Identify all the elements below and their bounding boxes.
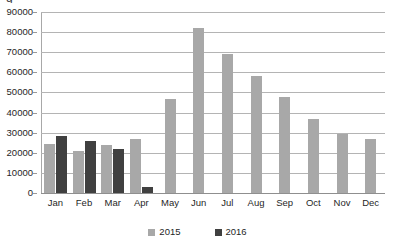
gridline <box>41 32 385 33</box>
bar-2015-nov <box>337 134 348 193</box>
legend-item-2015[interactable]: 2015 <box>148 227 180 237</box>
bar-2015-jan <box>44 144 55 193</box>
bar-2016-feb <box>85 141 96 193</box>
gridline <box>41 72 385 73</box>
gridline <box>41 52 385 53</box>
y-axis-tick-mark <box>33 92 37 93</box>
y-axis-tick-label: 80000 <box>7 27 33 37</box>
y-axis-tick-label: 50000 <box>7 87 33 97</box>
legend-swatch-icon-2015 <box>148 229 155 236</box>
y-axis-tick-label: 60000 <box>7 67 33 77</box>
y-axis-tick-label: 10000 <box>7 168 33 178</box>
y-axis-tick-label: 90000 <box>7 7 33 17</box>
legend-label-2015: 2015 <box>159 227 180 237</box>
bar-2015-mar <box>101 145 112 193</box>
y-axis-tick-label: 40000 <box>7 108 33 118</box>
legend-label-2016: 2016 <box>226 227 247 237</box>
bar-2015-aug <box>251 76 262 193</box>
y-axis-tick-mark <box>33 153 37 154</box>
gridline <box>41 133 385 134</box>
y-axis-tick-mark <box>33 72 37 73</box>
y-axis-tick-mark <box>33 12 37 13</box>
y-axis-tick-label: 70000 <box>7 47 33 57</box>
x-axis-line <box>41 193 385 194</box>
y-axis-labels: 0100002000030000400005000060000700008000… <box>0 12 37 194</box>
y-axis-tick-mark <box>33 32 37 33</box>
x-axis-label-dec: Dec <box>351 197 391 208</box>
y-axis-tick-mark <box>33 173 37 174</box>
bar-2015-feb <box>73 151 84 193</box>
plot-area <box>41 12 385 194</box>
gridline <box>41 92 385 93</box>
y-axis-tick-mark <box>33 133 37 134</box>
bar-chart: g 01000020000300004000050000600007000080… <box>0 0 395 246</box>
bar-2015-jul <box>222 54 233 193</box>
bar-2015-dec <box>365 139 376 193</box>
bar-2015-oct <box>308 119 319 193</box>
bar-2015-jun <box>193 28 204 193</box>
legend-swatch-icon-2016 <box>215 229 222 236</box>
bar-2015-sep <box>279 97 290 193</box>
y-axis-tick-mark <box>33 113 37 114</box>
y-axis-tick-label: 20000 <box>7 148 33 158</box>
x-axis-labels: JanFebMarAprMayJunJulAugSepOctNovDec <box>41 197 385 213</box>
chart-legend: 20152016 <box>0 224 395 240</box>
bar-2015-apr <box>130 139 141 193</box>
bar-2016-apr <box>142 187 153 193</box>
bar-2016-jan <box>56 136 67 193</box>
gridline <box>41 113 385 114</box>
bar-2015-may <box>165 99 176 193</box>
legend-item-2016[interactable]: 2016 <box>215 227 247 237</box>
gridline <box>41 12 385 13</box>
y-axis-tick-mark <box>33 52 37 53</box>
bar-2016-mar <box>113 149 124 193</box>
clipped-title-glyph: g <box>6 0 46 3</box>
y-axis-tick-mark <box>33 193 37 194</box>
y-axis-line <box>41 12 42 194</box>
y-axis-tick-label: 30000 <box>7 128 33 138</box>
